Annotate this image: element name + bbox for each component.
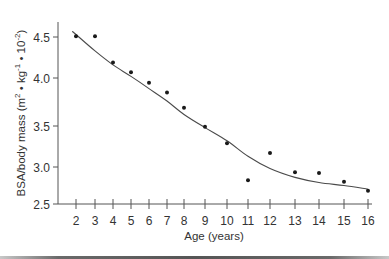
y-tick-label: 4.5: [33, 31, 50, 45]
y-axis-ticks: 2.53.03.54.04.5: [33, 31, 58, 212]
data-point: [111, 60, 115, 64]
data-point: [317, 171, 321, 175]
data-point: [93, 34, 97, 38]
x-tick-label: 5: [128, 214, 135, 228]
x-tick-label: 9: [202, 214, 209, 228]
x-axis-label: Age (years): [184, 230, 244, 242]
x-tick-label: 11: [242, 214, 255, 228]
x-tick-label: 16: [361, 214, 375, 228]
y-axis-title: BSA/body mass (m2 • kg-1 • 10-2): [13, 29, 27, 196]
data-point: [225, 141, 229, 145]
data-point: [182, 106, 186, 110]
x-tick-label: 12: [263, 214, 277, 228]
data-point: [246, 178, 250, 182]
y-tick-label: 2.5: [33, 198, 50, 212]
data-point: [74, 34, 78, 38]
x-tick-label: 6: [146, 214, 153, 228]
data-points: [74, 34, 370, 193]
x-tick-label: 8: [181, 214, 188, 228]
x-tick-label: 7: [164, 214, 171, 228]
axes: [58, 22, 372, 204]
data-point: [129, 70, 133, 74]
chart: BSA/body mass (m2 • kg-1 • 10-2) 2.53.03…: [0, 0, 389, 259]
fitted-curve: [72, 31, 368, 189]
y-tick-label: 4.0: [33, 72, 50, 86]
x-tick-label: 10: [220, 214, 234, 228]
data-point: [165, 90, 169, 94]
data-point: [268, 151, 272, 155]
x-tick-label: 4: [110, 214, 117, 228]
x-tick-label: 14: [312, 214, 326, 228]
x-tick-label: 15: [337, 214, 351, 228]
x-tick-label: 3: [92, 214, 99, 228]
y-axis-label: BSA/body mass (m2 • kg-1 • 10-2): [13, 29, 27, 196]
y-tick-label: 3.5: [33, 120, 50, 134]
x-tick-label: 2: [73, 214, 80, 228]
data-point: [366, 189, 370, 193]
data-point: [147, 81, 151, 85]
data-point: [342, 180, 346, 184]
y-tick-label: 3.0: [33, 161, 50, 175]
x-tick-label: 13: [288, 214, 302, 228]
data-point: [293, 170, 297, 174]
x-axis-ticks: 2345678910111213141516: [73, 199, 375, 228]
data-point: [203, 125, 207, 129]
